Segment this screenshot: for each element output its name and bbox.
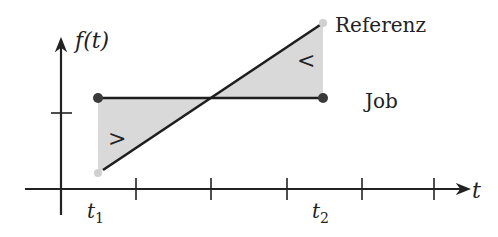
job-end-dot: [318, 93, 328, 103]
y-axis-label: f(t): [73, 28, 109, 53]
reference-start-dot: [94, 169, 102, 177]
x-axis-label: t: [472, 178, 481, 203]
reference-end-dot: [319, 19, 327, 27]
legend-job: Job: [363, 89, 398, 113]
job-start-dot: [93, 93, 103, 103]
less-than-marker: <: [297, 48, 315, 73]
diagram: > < f(t) t Referenz Job t1 t2: [0, 0, 498, 237]
tick-label-t1: t1: [87, 199, 104, 226]
tick-label-t2: t2: [312, 199, 329, 226]
greater-than-marker: >: [108, 126, 126, 151]
legend-referenz: Referenz: [335, 13, 426, 37]
